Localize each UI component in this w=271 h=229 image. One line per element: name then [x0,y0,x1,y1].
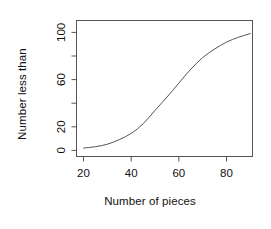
x-tick-label: 60 [172,167,185,179]
y-tick-label: 20 [55,120,67,133]
chart-figure: 20 40 60 80 0 20 60 100 Number less than… [0,0,271,229]
plot-border [77,21,253,157]
x-axis-title: Number of pieces [60,195,240,207]
y-tick-labels: 0 20 60 100 [55,23,67,154]
y-tick-label: 0 [55,147,67,153]
data-series-line [84,34,251,148]
x-tick-label: 20 [77,167,90,179]
y-tick-label: 60 [55,73,67,86]
y-axis-ticks [72,32,77,150]
x-tick-label: 40 [125,167,138,179]
x-tick-labels: 20 40 60 80 [77,167,233,179]
y-axis-title: Number less than [16,34,28,154]
x-axis-ticks [84,157,227,162]
x-tick-label: 80 [220,167,233,179]
y-tick-label: 100 [55,23,67,42]
